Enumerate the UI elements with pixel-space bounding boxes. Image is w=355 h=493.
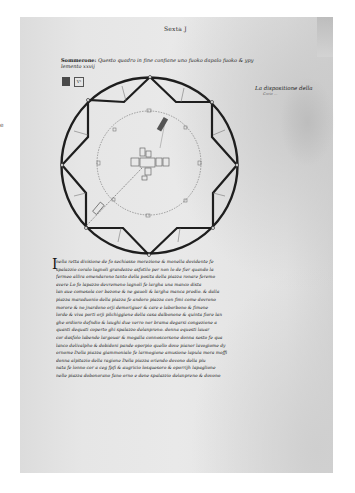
notch-measurements <box>74 86 225 242</box>
inner-circle <box>97 111 201 215</box>
radial-line <box>86 168 142 226</box>
central-plan <box>131 148 169 180</box>
inner-markers <box>97 109 201 217</box>
star-fortress-diagram <box>0 0 355 493</box>
sw-block <box>93 202 105 214</box>
ne-block <box>157 117 168 132</box>
